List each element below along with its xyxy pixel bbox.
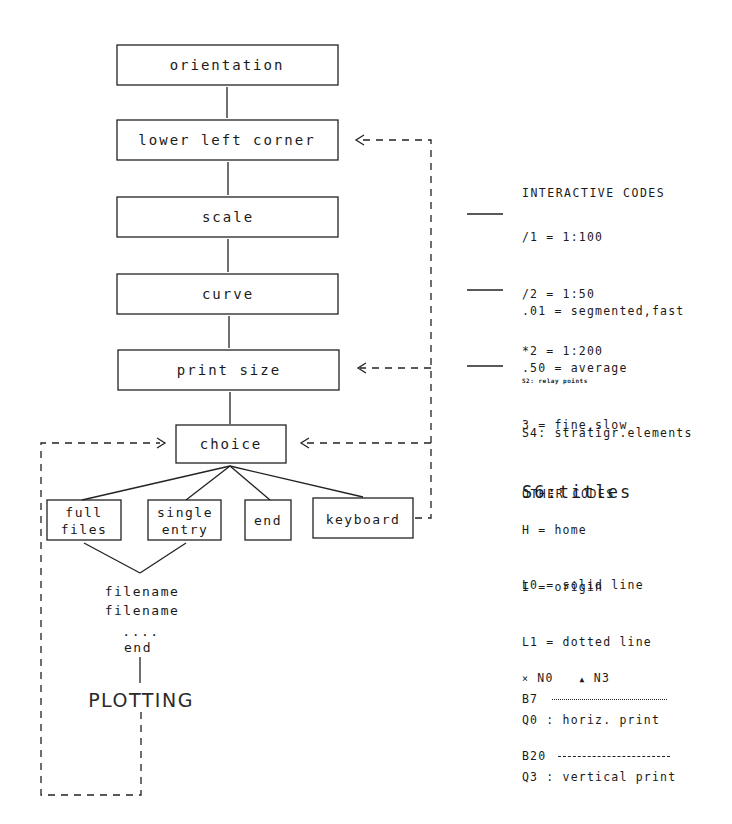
print-code-medium: S4: stratigr.elements <box>522 424 693 443</box>
option-label-full: full <box>65 505 102 520</box>
arrow-left-icon <box>356 135 364 145</box>
step-label-lower-left-corner: lower left corner <box>138 132 315 148</box>
merge-line <box>140 543 186 573</box>
option-label-single: single <box>157 505 213 520</box>
line-code: L0 = solid line <box>522 576 670 595</box>
print-code-small: S2: relay points <box>522 377 693 385</box>
command-codes: Q0 : horiz. print Q3 : vertical print M … <box>522 673 676 824</box>
merge-line <box>84 543 140 573</box>
scale-code: /1 = 1:100 <box>522 228 603 247</box>
command-code: Q3 : vertical print <box>522 768 676 787</box>
plotting-label: PLOTTING <box>88 689 194 711</box>
branch-line <box>230 466 363 497</box>
file-list-item: filename <box>105 584 180 599</box>
command-code: Q0 : horiz. print <box>522 711 676 730</box>
choice-label: choice <box>200 436 263 452</box>
file-list-ellipsis: .... <box>122 624 159 639</box>
step-label-orientation: orientation <box>170 57 285 73</box>
step-label-curve: curve <box>202 286 254 302</box>
file-list-end: end <box>124 640 152 655</box>
option-label-end: end <box>254 513 282 528</box>
step-label-print-size: print size <box>177 362 281 378</box>
option-label-keyboard: keyboard <box>326 512 401 527</box>
keyboard-feedback-loop <box>358 140 431 518</box>
option-label-entry: entry <box>162 522 209 537</box>
step-label-scale: scale <box>202 209 254 225</box>
curve-code: .01 = segmented,fast <box>522 302 684 321</box>
option-label-files: files <box>61 522 108 537</box>
file-list-item: filename <box>105 603 180 618</box>
